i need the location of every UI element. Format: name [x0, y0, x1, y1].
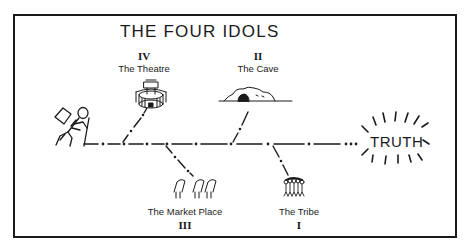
market-stalls-icon [174, 180, 216, 198]
branch-tribe [273, 146, 288, 175]
branch-cave [233, 112, 248, 142]
cave-icon [219, 87, 292, 101]
truth-rays-icon [362, 112, 429, 164]
hiker-icon [55, 108, 89, 147]
theatre-icon [136, 80, 166, 108]
branch-market [166, 146, 193, 176]
branch-theatre [123, 108, 147, 142]
main-path-line [84, 143, 357, 144]
diagram-artwork [0, 0, 464, 248]
crowd-icon [284, 178, 304, 196]
